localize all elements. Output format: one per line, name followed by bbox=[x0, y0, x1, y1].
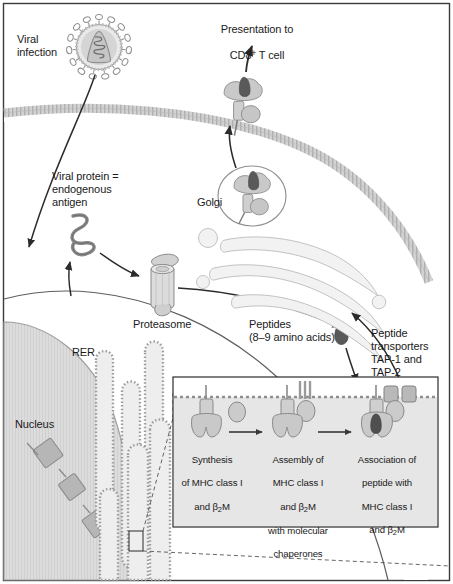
presentation-line1: Presentation to bbox=[221, 23, 294, 35]
label-peptides: Peptides (8–9 amino acids) bbox=[249, 318, 335, 344]
label-viral-infection: Viral infection bbox=[17, 33, 57, 59]
label-nucleus: Nucleus bbox=[15, 418, 54, 431]
label-presentation: Presentation to CD8+ T cell bbox=[197, 10, 317, 62]
association-line1: Association of bbox=[358, 454, 416, 465]
mhc-peptide-complex-vesicle bbox=[218, 166, 286, 226]
label-rer: RER bbox=[72, 346, 95, 359]
mhc-class-i-pathway-figure: Viral infection Presentation to CD8+ T c… bbox=[0, 0, 453, 584]
association-line3: MHC class I bbox=[362, 501, 413, 512]
assembly-line3-post: M bbox=[308, 501, 316, 512]
synthesis-line3-pre: and β bbox=[194, 501, 218, 512]
association-line4-post: M bbox=[397, 524, 405, 535]
label-viral-protein: Viral protein = endogenous antigen bbox=[52, 170, 118, 209]
assembly-line3-pre: and β bbox=[280, 501, 304, 512]
synthesis-line2: of MHC class I bbox=[182, 477, 243, 488]
label-proteasome: Proteasome bbox=[133, 318, 191, 331]
inset-caption-synthesis: Synthesis of MHC class I and β2M bbox=[176, 442, 248, 513]
presentation-cd8-prefix: CD8 bbox=[230, 49, 252, 61]
label-golgi: Golgi bbox=[197, 196, 222, 209]
presentation-cd8-suffix: T cell bbox=[256, 49, 284, 61]
association-line2: peptide with bbox=[362, 477, 412, 488]
synthesis-line1: Synthesis bbox=[192, 454, 233, 465]
assembly-line5: chaperones bbox=[273, 548, 322, 559]
assembly-line2: MHC class I bbox=[273, 477, 324, 488]
bound-peptide bbox=[371, 414, 382, 434]
assembly-line1: Assembly of bbox=[272, 454, 323, 465]
label-tap-transporters: Peptide transporters TAP-1 and TAP-2 bbox=[371, 327, 429, 379]
assembly-line4: with molecular bbox=[268, 525, 328, 536]
inset-caption-association: Association of peptide with MHC class I … bbox=[347, 442, 427, 537]
inset-caption-assembly: Assembly of MHC class I and β2M with mol… bbox=[259, 442, 337, 560]
association-line4-pre: and β bbox=[369, 524, 393, 535]
synthesis-line3-post: M bbox=[222, 501, 230, 512]
